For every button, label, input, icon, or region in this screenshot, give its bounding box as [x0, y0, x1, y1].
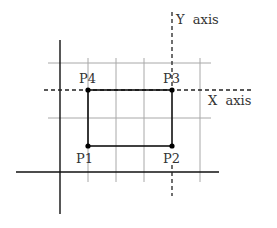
point-p4 — [85, 87, 90, 92]
label-p2: P2 — [163, 151, 180, 166]
point-p2 — [169, 143, 174, 148]
label-y-axis: Y axis — [175, 12, 219, 27]
label-p4: P4 — [79, 71, 96, 86]
coordinate-diagram: P4 P3 P1 P2 Y axis X axis — [0, 0, 277, 228]
label-p1: P1 — [76, 151, 93, 166]
main-axes — [16, 40, 219, 214]
label-x-axis: X axis — [208, 93, 251, 108]
point-p1 — [85, 143, 90, 148]
point-p3 — [169, 87, 174, 92]
label-p3: P3 — [163, 71, 180, 86]
grid — [48, 58, 211, 182]
